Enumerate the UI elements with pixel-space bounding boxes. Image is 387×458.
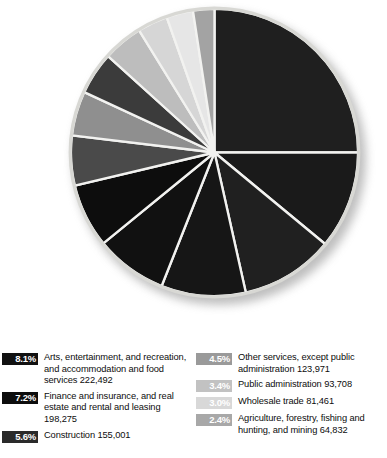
pie-svg xyxy=(68,6,361,299)
legend-label: Other services, except public administra… xyxy=(238,352,387,375)
pie-slice-group xyxy=(71,9,358,296)
legend-item[interactable]: 3.4%Public administration 93,708 xyxy=(196,379,387,392)
legend-swatch: 7.2% xyxy=(2,392,38,404)
legend-swatch: 5.6% xyxy=(2,431,38,443)
legend: 8.1%Arts, entertainment, and recreation,… xyxy=(0,352,387,458)
pie-slice xyxy=(215,9,359,153)
legend-item[interactable]: 5.6%Construction 155,001 xyxy=(2,430,192,443)
legend-swatch: 3.0% xyxy=(196,397,232,409)
legend-label: Wholesale trade 81,461 xyxy=(238,396,387,408)
page-subtitle: s xyxy=(0,91,64,99)
legend-item[interactable]: 8.1%Arts, entertainment, and recreation,… xyxy=(2,352,192,387)
legend-label: Finance and insurance, and real estate a… xyxy=(44,391,192,426)
legend-label: Agriculture, forestry, fishing and hunti… xyxy=(238,413,387,436)
legend-column-left: 8.1%Arts, entertainment, and recreation,… xyxy=(2,352,192,447)
pie-graphic xyxy=(68,6,361,299)
legend-item[interactable]: 7.2%Finance and insurance, and real esta… xyxy=(2,391,192,426)
legend-item[interactable]: 4.5%Other services, except public admini… xyxy=(196,352,387,375)
page-title: p? xyxy=(0,48,64,82)
legend-label: Construction 155,001 xyxy=(44,430,192,442)
legend-swatch: 4.5% xyxy=(196,353,232,365)
pie-chart xyxy=(60,0,382,348)
legend-label: Arts, entertainment, and recreation, and… xyxy=(44,352,192,387)
legend-item[interactable]: 3.0%Wholesale trade 81,461 xyxy=(196,396,387,409)
title-block: p? s xyxy=(0,48,64,99)
legend-item[interactable]: 2.4%Agriculture, forestry, fishing and h… xyxy=(196,413,387,436)
legend-column-right: 4.5%Other services, except public admini… xyxy=(196,352,387,440)
legend-swatch: 8.1% xyxy=(2,353,38,365)
legend-label: Public administration 93,708 xyxy=(238,379,387,391)
legend-swatch: 2.4% xyxy=(196,414,232,426)
legend-swatch: 3.4% xyxy=(196,380,232,392)
